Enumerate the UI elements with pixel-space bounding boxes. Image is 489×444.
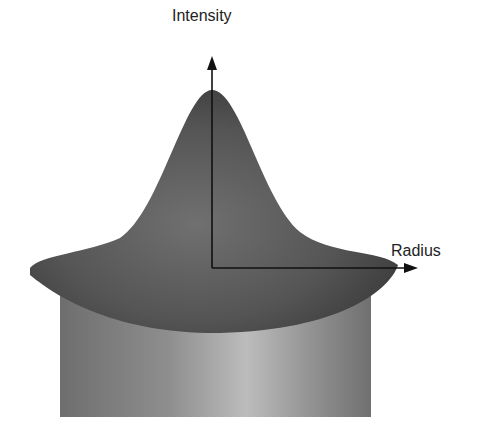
gaussian-beam-diagram [0, 0, 489, 444]
radius-arrowhead-icon [404, 263, 418, 273]
radius-axis-label: Radius [391, 242, 441, 260]
gaussian-profile [30, 90, 398, 333]
intensity-arrowhead-icon [207, 56, 217, 70]
intensity-axis-label: Intensity [172, 7, 232, 25]
gaussian-surface [30, 90, 398, 333]
